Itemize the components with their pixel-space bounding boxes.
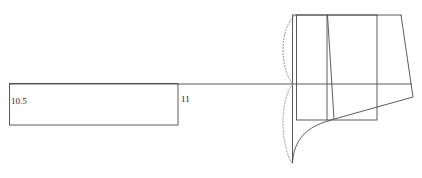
inner-slanted-line xyxy=(328,15,335,119)
technical-drawing-canvas: 10.5 11 xyxy=(0,0,422,178)
upper-dotted-arc xyxy=(283,15,296,84)
dimension-label-11: 11 xyxy=(181,94,190,104)
dimension-label-10-5: 10.5 xyxy=(11,96,27,106)
right-rectangle xyxy=(297,15,378,120)
fillet-curve xyxy=(293,121,331,164)
outer-slanted-line xyxy=(401,15,413,97)
left-rectangle xyxy=(10,84,179,126)
bottom-slanted-line xyxy=(329,97,413,121)
lower-dotted-arc xyxy=(283,84,293,164)
